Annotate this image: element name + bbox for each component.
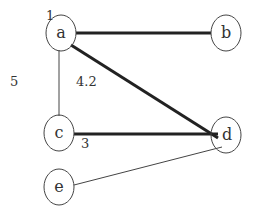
edge-e-d <box>74 147 222 185</box>
node-d-label: d <box>222 125 232 144</box>
node-a-label: a <box>56 23 66 42</box>
node-b-label: b <box>221 23 231 42</box>
weight-label-a-d: 4.2 <box>76 74 97 89</box>
node-e[interactable]: e <box>44 169 74 205</box>
node-c[interactable]: c <box>44 115 74 151</box>
node-e-label: e <box>54 177 63 196</box>
edge-a-d <box>71 45 218 138</box>
weight-label-a-b: 1 <box>46 8 54 23</box>
weight-label-c-d: 3 <box>81 136 89 151</box>
node-b[interactable]: b <box>211 15 241 51</box>
graph-diagram: a b c d e 1 5 4.2 3 <box>0 0 255 213</box>
node-c-label: c <box>55 123 64 142</box>
weight-label-a-c: 5 <box>10 74 18 89</box>
